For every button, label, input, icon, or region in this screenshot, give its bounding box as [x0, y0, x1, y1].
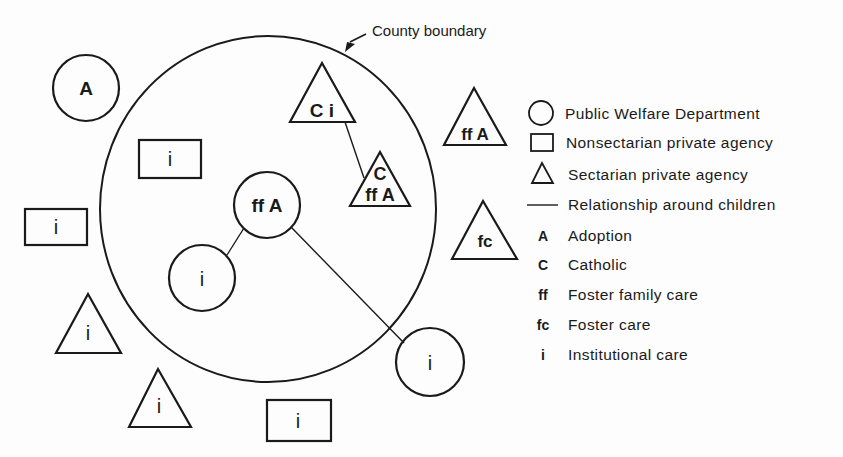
legend-label: Relationship around children — [568, 196, 776, 213]
legend-item-institutional: i Institutional care — [541, 346, 688, 363]
node-public-welfare-ff-a: ff A — [234, 172, 300, 238]
node-code: i — [296, 410, 300, 432]
relationship-line-ffa-i-right — [291, 227, 404, 343]
legend-label: Public Welfare Department — [565, 105, 760, 122]
legend-item-nonsectarian: Nonsectarian private agency — [531, 134, 773, 151]
node-code: i — [86, 322, 90, 344]
legend-item-relationship: Relationship around children — [527, 196, 776, 213]
legend-item-foster-family: ff Foster family care — [538, 286, 698, 303]
node-code: i — [428, 352, 432, 374]
agency-relationship-diagram: County boundary A i ff A C i C ff A i i — [0, 0, 843, 457]
node-code: C i — [310, 100, 334, 121]
county-boundary-callout: County boundary — [345, 22, 487, 52]
node-code: i — [54, 216, 58, 238]
rectangle-symbol-icon — [531, 134, 553, 151]
county-boundary-label: County boundary — [372, 22, 487, 39]
triangle-symbol-icon — [532, 163, 553, 183]
node-nonsectarian-institutional-inner: i — [139, 140, 201, 178]
legend: Public Welfare Department Nonsectarian p… — [527, 101, 776, 363]
legend-label: Foster care — [568, 316, 651, 333]
node-sectarian-ff-a-outside: ff A — [444, 88, 506, 145]
legend-item-sectarian: Sectarian private agency — [532, 163, 748, 183]
node-code: i — [157, 395, 161, 417]
circle-symbol-icon — [529, 101, 553, 125]
node-sectarian-catholic-institutional: C i — [290, 63, 355, 122]
legend-code: ff — [538, 287, 548, 303]
legend-code: fc — [537, 317, 550, 333]
relationship-line-ffa-i-inner — [227, 228, 244, 255]
callout-arrow-line — [350, 34, 366, 42]
legend-code: i — [541, 347, 545, 363]
node-public-welfare-institutional-right: i — [396, 328, 464, 396]
legend-code: C — [538, 257, 548, 273]
node-code: i — [200, 268, 204, 290]
legend-label: Sectarian private agency — [568, 166, 748, 183]
legend-label: Adoption — [568, 227, 632, 244]
node-code: fc — [477, 232, 492, 251]
legend-label: Institutional care — [568, 346, 688, 363]
legend-item-public-welfare: Public Welfare Department — [529, 101, 760, 125]
callout-arrowhead-icon — [345, 42, 355, 52]
node-sectarian-foster-care: fc — [452, 201, 517, 259]
legend-code: A — [538, 228, 548, 244]
node-sectarian-catholic-ff-a: C ff A — [350, 152, 410, 206]
legend-label: Nonsectarian private agency — [566, 134, 773, 151]
node-code: A — [79, 78, 93, 99]
node-sectarian-institutional-bottom: i — [129, 369, 191, 427]
legend-label: Foster family care — [568, 286, 698, 303]
legend-item-catholic: C Catholic — [538, 256, 627, 273]
node-code: ff A — [252, 195, 283, 216]
node-nonsectarian-institutional-bottom: i — [267, 400, 331, 441]
node-code-top: C — [374, 164, 387, 184]
legend-label: Catholic — [568, 256, 627, 273]
relationship-line-ci-cffa — [345, 122, 364, 178]
node-nonsectarian-institutional-left: i — [25, 209, 87, 245]
node-public-welfare-adoption: A — [53, 55, 119, 121]
legend-item-adoption: A Adoption — [538, 227, 632, 244]
node-public-welfare-institutional-inner: i — [169, 245, 235, 311]
node-sectarian-institutional-left: i — [56, 294, 121, 353]
node-code: ff A — [461, 125, 489, 144]
node-code: i — [168, 148, 172, 170]
node-code-bottom: ff A — [365, 185, 394, 205]
legend-item-foster-care: fc Foster care — [537, 316, 651, 333]
